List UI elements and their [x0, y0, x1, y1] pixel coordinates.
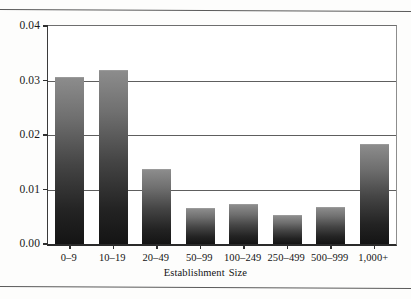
x-axis-label: 10–19	[99, 252, 126, 263]
x-axis-label: 0–9	[61, 252, 77, 263]
bar-1,000+	[360, 144, 389, 244]
x-axis-label: 250–499	[268, 252, 305, 263]
figure-top-rule	[0, 9, 411, 12]
x-axis-title: Establishment Size	[0, 267, 411, 278]
y-axis-label: 0.01	[0, 183, 40, 195]
x-tick-mark	[243, 244, 245, 249]
bar-0–9	[55, 77, 84, 244]
x-tick-mark	[156, 244, 158, 249]
x-tick-mark	[287, 244, 289, 249]
bar-20–49	[142, 169, 171, 244]
x-tick-mark	[330, 244, 332, 249]
bar-10–19	[99, 70, 128, 244]
bar-250–499	[273, 215, 302, 244]
x-tick-mark	[374, 244, 376, 249]
x-tick-mark	[69, 244, 71, 249]
y-axis-label: 0.00	[0, 237, 40, 249]
x-axis-label: 20–49	[142, 252, 169, 263]
plot-area	[47, 25, 397, 246]
x-tick-mark	[200, 244, 202, 249]
x-axis-label: 50–99	[186, 252, 213, 263]
x-axis-label: 100–249	[224, 252, 261, 263]
x-axis-label: 500–999	[311, 252, 348, 263]
figure-bottom-rule	[0, 286, 411, 289]
y-axis-label: 0.04	[0, 19, 40, 31]
x-axis-label: 1,000+	[358, 252, 388, 263]
bars-group	[48, 26, 396, 244]
x-tick-mark	[113, 244, 115, 249]
figure-container: 0.000.010.020.030.04 0–910–1920–4950–991…	[0, 0, 411, 299]
bar-50–99	[186, 208, 215, 244]
y-axis-label: 0.02	[0, 128, 40, 140]
bar-100–249	[229, 204, 258, 244]
y-axis-label: 0.03	[0, 74, 40, 86]
bar-500–999	[316, 207, 345, 244]
